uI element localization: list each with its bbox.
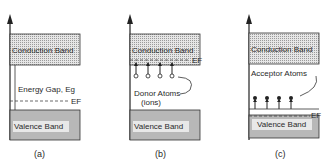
conduction-band-label: Conduction Band xyxy=(12,46,73,55)
valence-band-label: Valence Band xyxy=(134,122,183,131)
arrow-head-icon xyxy=(127,14,133,24)
pointer-arrow xyxy=(300,76,317,96)
energy-gap-label: Energy Gap, Eg xyxy=(18,85,75,94)
arrow-head-icon xyxy=(246,14,252,24)
band-diagram: Conduction Band Energy Gap, Eg EF Valenc… xyxy=(0,0,331,166)
valence-band-label: Valence Band xyxy=(257,120,306,129)
panel-c: Conduction Band Acceptor Atoms EF Valenc… xyxy=(246,14,321,159)
acceptor-atoms xyxy=(253,96,293,109)
panel-a: Conduction Band Energy Gap, Eg EF Valenc… xyxy=(7,14,81,159)
acceptor-label: Acceptor Atoms xyxy=(251,69,307,78)
caption-a: (a) xyxy=(34,149,45,159)
conduction-band-label: Conduction Band xyxy=(132,46,193,55)
donor-sub-label: (ions) xyxy=(141,98,161,107)
donor-label: Donor Atoms xyxy=(134,89,180,98)
conduction-band-label: Conduction Band xyxy=(251,45,312,54)
valence-band-label: Valence Band xyxy=(14,122,63,131)
caption-b: (b) xyxy=(155,149,166,159)
arrow-head-icon xyxy=(7,14,13,24)
fermi-level-label: EF xyxy=(192,56,202,65)
fermi-level-label: EF xyxy=(311,111,321,120)
caption-c: (c) xyxy=(275,149,286,159)
panel-b: Conduction Band EF Donor Atoms (ions) Va… xyxy=(127,14,202,159)
fermi-level-label: EF xyxy=(71,97,81,106)
